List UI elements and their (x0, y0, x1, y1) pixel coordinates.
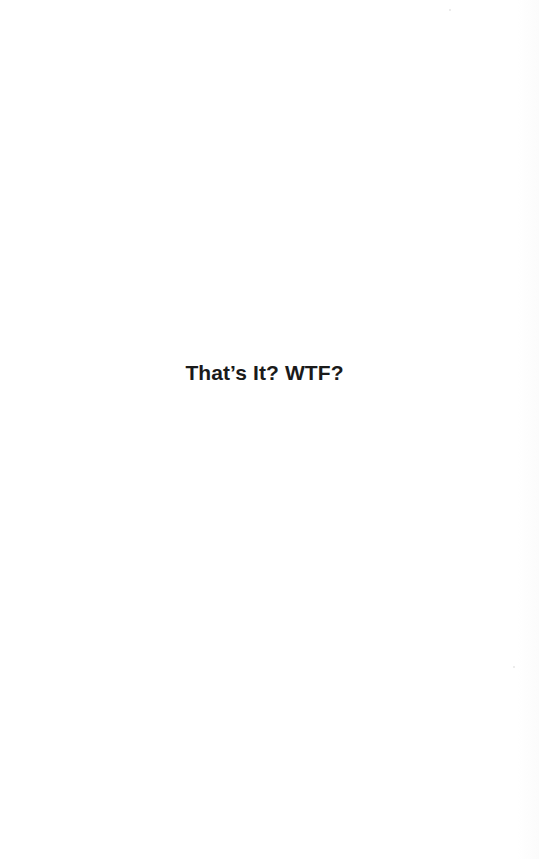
page-heading: That’s It? WTF? (0, 359, 529, 387)
scan-speck (513, 666, 515, 668)
scan-speck (449, 9, 451, 11)
document-page: That’s It? WTF? (0, 0, 539, 859)
